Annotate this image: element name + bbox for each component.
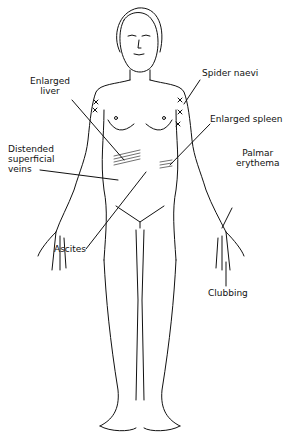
- right-hand: [216, 232, 244, 270]
- hair: [117, 8, 162, 52]
- breasts: [108, 120, 172, 130]
- spider-naevi-marks: [93, 98, 182, 126]
- leader-ascites: [86, 172, 146, 249]
- eyes: [128, 35, 150, 36]
- torso-outline: [56, 80, 226, 232]
- label-palmar-erythema: Palmar erythema: [236, 148, 280, 168]
- leader-palmar: [222, 208, 232, 228]
- leader-spider: [184, 80, 200, 104]
- spleen-hatch: [160, 160, 172, 168]
- label-enlarged-liver: Enlarged liver: [30, 76, 70, 96]
- label-ascites: Ascites: [54, 244, 86, 254]
- leader-liver: [72, 100, 124, 160]
- groin: [116, 206, 164, 228]
- legs: [100, 230, 180, 426]
- label-enlarged-spleen: Enlarged spleen: [210, 114, 282, 124]
- label-spider-naevi: Spider naevi: [202, 68, 258, 78]
- label-distended-veins: Distended superficial veins: [8, 144, 54, 174]
- body-figure: [0, 0, 287, 438]
- label-clubbing: Clubbing: [208, 288, 248, 298]
- leader-spleen: [170, 124, 210, 165]
- nose-mouth: [134, 40, 144, 55]
- feet: [100, 426, 180, 431]
